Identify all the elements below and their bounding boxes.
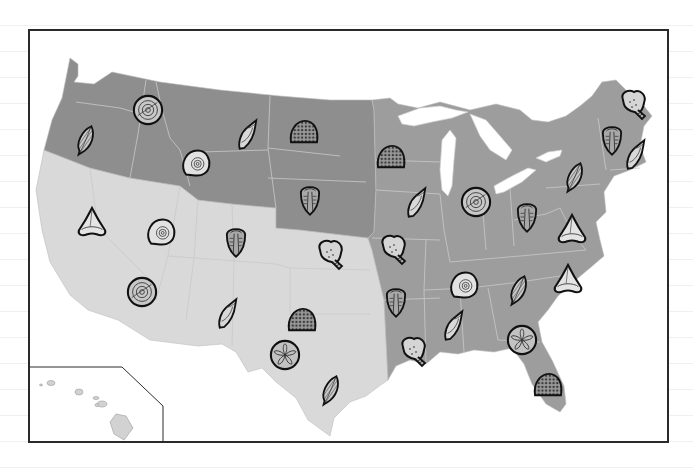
ammonite-spiral-icon bbox=[462, 188, 490, 216]
sand-dollar-icon bbox=[271, 341, 299, 369]
ammonite-icon bbox=[451, 273, 477, 298]
ammonite-spiral-icon bbox=[128, 278, 156, 306]
sand-dollar-icon bbox=[508, 326, 536, 354]
us-fossil-map bbox=[0, 0, 693, 472]
ammonite-icon bbox=[183, 151, 209, 176]
ammonite-icon bbox=[148, 220, 174, 245]
hawaii-inset bbox=[30, 367, 163, 443]
ammonite-spiral-icon bbox=[134, 96, 162, 124]
